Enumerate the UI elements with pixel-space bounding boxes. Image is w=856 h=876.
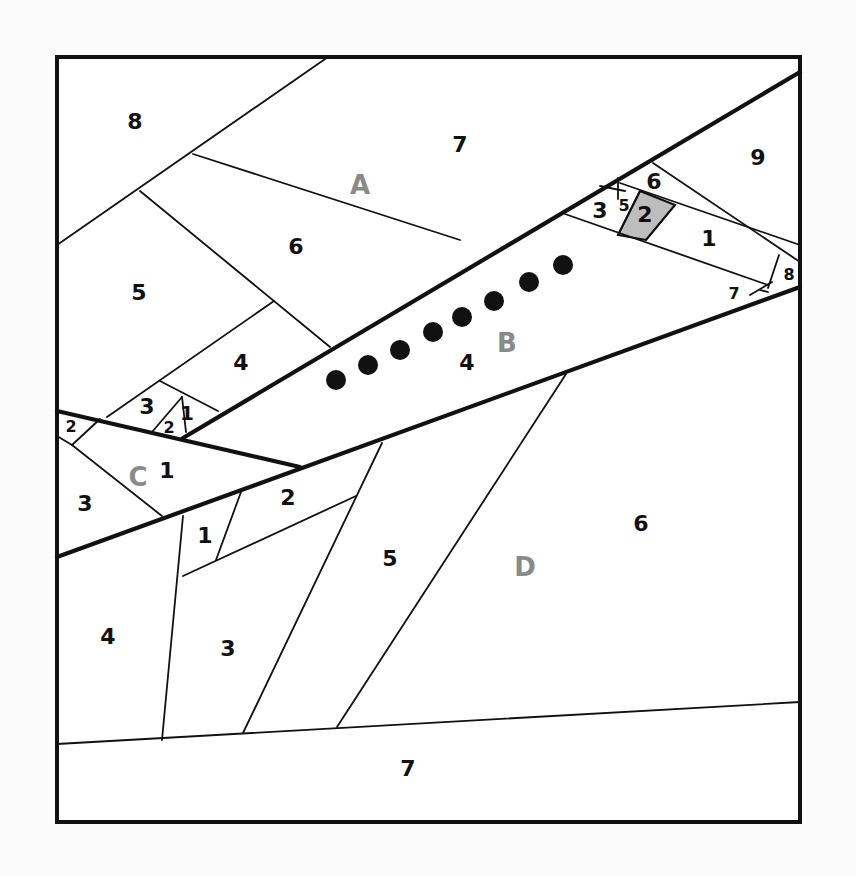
piece-label-a1: 1	[180, 401, 194, 425]
piece-label-a2: 2	[65, 417, 76, 436]
piece-label-d2: 2	[280, 485, 295, 510]
piece-label-b3: 3	[592, 198, 607, 223]
section-label-d: D	[514, 552, 536, 582]
piece-label-a5: 5	[131, 280, 146, 305]
pattern-background	[57, 57, 800, 822]
piece-label-a2: 2	[163, 418, 174, 437]
piece-label-c1: 1	[159, 458, 174, 483]
window-dot	[326, 370, 346, 390]
section-label-a: A	[350, 170, 370, 200]
piece-label-b4: 4	[459, 350, 474, 375]
window-dot	[484, 291, 504, 311]
piece-label-b8: 8	[783, 265, 794, 284]
piece-label-c3: 3	[77, 491, 92, 516]
piece-label-a7: 7	[452, 132, 467, 157]
piece-label-a3: 3	[139, 394, 154, 419]
pattern-page: 876543212496352187132156437 ABCD	[0, 0, 856, 876]
piece-label-b5: 5	[618, 196, 629, 215]
window-dot	[423, 322, 443, 342]
piece-label-d3: 3	[220, 636, 235, 661]
piece-label-a8: 8	[127, 109, 142, 134]
piece-label-b2: 2	[637, 202, 652, 227]
section-label-b: B	[497, 328, 517, 358]
piece-label-d1: 1	[197, 523, 212, 548]
piece-label-b7: 7	[728, 284, 739, 303]
section-label-c: C	[128, 462, 147, 492]
piece-label-b9: 9	[750, 145, 765, 170]
window-dot	[358, 355, 378, 375]
piece-label-a6: 6	[288, 234, 303, 259]
paper-piecing-diagram: 876543212496352187132156437 ABCD	[0, 0, 856, 876]
piece-label-d6: 6	[633, 511, 648, 536]
piece-label-d5: 5	[382, 546, 397, 571]
piece-label-d7: 7	[400, 756, 415, 781]
window-dot	[452, 307, 472, 327]
piece-label-b1: 1	[701, 226, 716, 251]
piece-label-b6: 6	[646, 169, 661, 194]
piece-label-d4: 4	[100, 624, 115, 649]
window-dot	[390, 340, 410, 360]
window-dot	[553, 255, 573, 275]
piece-label-a4: 4	[233, 350, 248, 375]
window-dot	[519, 272, 539, 292]
